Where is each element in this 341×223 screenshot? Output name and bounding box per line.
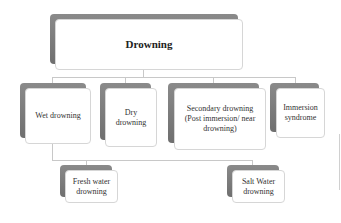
secondary-drowning-label: Secondary drowning (Post immersion/ near… [185,104,256,134]
node-box: Fresh water drowning [65,170,118,203]
label-line: Fresh water [73,177,111,186]
label-line: (Post immersion/ near [185,114,256,123]
immersion-syndrome-label: Immersion syndrome [283,103,318,123]
root-label: Drowning [126,38,173,52]
right-edge-line [339,134,340,190]
label-line: drowning [116,118,147,127]
salt-water-label: Salt Water drowning [242,177,275,197]
label-line: Immersion [283,103,318,112]
node-box: Dry drowning [105,88,157,147]
fresh-water-label: Fresh water drowning [73,177,111,197]
dry-drowning-label: Dry drowning [116,108,147,128]
node-box: Drowning [55,19,243,70]
label-line: syndrome [285,113,317,122]
wet-drowning-label: Wet drowning [35,111,80,121]
label-line: drowning [76,187,107,196]
label-line: drowning) [203,124,236,133]
connector-wet-to-subtypes [52,144,53,161]
node-box: Salt Water drowning [232,170,285,203]
label-line: drowning [243,187,274,196]
connector-level2-horizontal [52,160,253,161]
node-box: Secondary drowning (Post immersion/ near… [174,88,266,150]
node-box: Wet drowning [25,88,91,144]
connector-level1-horizontal [52,77,296,78]
node-box: Immersion syndrome [276,88,325,138]
label-line: Secondary drowning [187,104,253,113]
label-line: Dry [125,108,137,117]
label-line: Salt Water [242,177,275,186]
